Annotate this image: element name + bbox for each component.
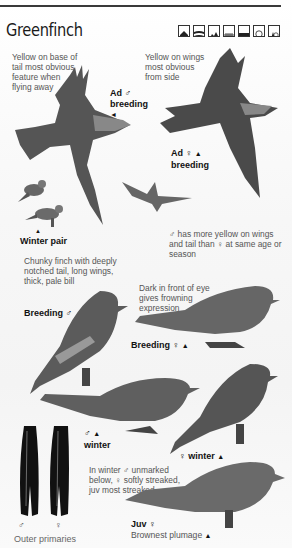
winter-pair-bird-2-illustration — [25, 200, 70, 228]
male-symbol: ♂ — [169, 229, 175, 239]
caption-chunky-note: Chunky finch with deeply notched tail, l… — [24, 256, 124, 286]
label-winter-pair: Winter pair — [20, 236, 67, 247]
caption-outer-primaries: Outer primaries — [14, 534, 76, 544]
outer-primary-male-symbol: ♂ — [18, 520, 25, 530]
outer-primary-female-illustration — [48, 426, 73, 516]
caption-juv-note: Brownest plumage ▲ — [131, 530, 212, 541]
reedbed-icon — [223, 25, 235, 37]
garden-house-icon — [178, 25, 190, 37]
habitat-icons — [178, 25, 280, 37]
hills-icon — [208, 25, 220, 37]
flying-distant-illustration — [122, 176, 192, 216]
outer-primary-male-illustration — [18, 426, 43, 516]
deciduous-woodland-icon — [253, 25, 265, 37]
field-guide-page: Greenfinch Yellow on base of tail most o… — [0, 0, 292, 548]
caption-male-yellow-note: ♂ has more yellow on wings and tail than… — [169, 229, 287, 259]
species-title: Greenfinch — [6, 20, 83, 40]
female-symbol: ♀ — [217, 239, 223, 249]
farmland-icon — [193, 25, 205, 37]
breeding-female-perched-illustration — [135, 282, 280, 357]
juvenile-perched-illustration — [125, 460, 285, 530]
wetland-water-icon — [238, 25, 250, 37]
female-winter-perched-illustration — [160, 362, 278, 457]
top-rule-divider — [0, 5, 281, 7]
mixed-woodland-icon — [268, 25, 280, 37]
outer-primary-female-symbol: ♀ — [55, 520, 62, 530]
